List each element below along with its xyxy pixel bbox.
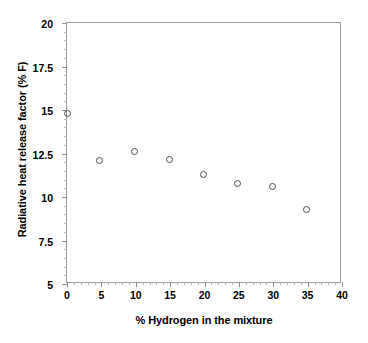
x-axis-minor-tick: [301, 282, 302, 285]
y-axis-tick-label: 7.5: [38, 236, 53, 247]
x-axis-minor-tick: [321, 282, 322, 285]
x-axis-minor-tick: [74, 282, 75, 285]
x-axis-tick-label: 0: [64, 290, 70, 301]
x-axis-minor-tick: [287, 282, 288, 285]
chart-figure: Radiative heat release factor (% F) 2017…: [0, 0, 368, 343]
y-axis-minor-tick: [64, 232, 67, 233]
y-axis-minor-tick: [64, 101, 67, 102]
x-axis-minor-tick: [260, 282, 261, 285]
x-axis-minor-tick: [191, 282, 192, 285]
data-point-marker: [303, 206, 310, 213]
y-axis-minor-tick: [64, 188, 67, 189]
plot-inner: 2017.51512.5107.550510152025303540: [67, 23, 340, 282]
y-axis-tick-label: 5: [47, 280, 53, 291]
y-axis-minor-tick: [64, 267, 67, 268]
x-axis-tick-label: 20: [199, 290, 211, 301]
x-axis-minor-tick: [280, 282, 281, 285]
x-axis-minor-tick: [115, 282, 116, 285]
x-axis-minor-tick: [328, 282, 329, 285]
data-point-marker: [166, 156, 173, 163]
x-axis-minor-tick: [177, 282, 178, 285]
data-point-marker: [131, 148, 138, 155]
x-axis-tick-label: 30: [267, 290, 279, 301]
data-point-marker: [269, 183, 276, 190]
x-axis-minor-tick: [81, 282, 82, 285]
x-axis-minor-tick: [198, 282, 199, 285]
y-axis-minor-tick: [64, 223, 67, 224]
y-axis-tick: 10: [62, 197, 67, 198]
y-axis-minor-tick: [64, 127, 67, 128]
y-axis-minor-tick: [64, 162, 67, 163]
x-axis-title: % Hydrogen in the mixture: [66, 314, 342, 326]
y-axis-minor-tick: [64, 145, 67, 146]
x-axis-minor-tick: [95, 282, 96, 285]
x-axis-tick: [342, 282, 343, 287]
y-axis-minor-tick: [64, 275, 67, 276]
x-axis-minor-tick: [143, 282, 144, 285]
y-axis-minor-tick: [64, 40, 67, 41]
x-axis-tick: [308, 282, 309, 287]
x-axis-minor-tick: [225, 282, 226, 285]
x-axis-minor-tick: [232, 282, 233, 285]
data-point-marker: [64, 110, 71, 117]
x-axis-minor-tick: [294, 282, 295, 285]
x-axis-tick: [273, 282, 274, 287]
x-axis-tick: [205, 282, 206, 287]
x-axis-minor-tick: [122, 282, 123, 285]
x-axis-tick-label: 15: [164, 290, 176, 301]
x-axis-minor-tick: [211, 282, 212, 285]
y-axis-minor-tick: [64, 49, 67, 50]
x-axis-tick: [170, 282, 171, 287]
x-axis-minor-tick: [108, 282, 109, 285]
x-axis-tick: [136, 282, 137, 287]
y-axis-minor-tick: [64, 136, 67, 137]
y-axis-minor-tick: [64, 93, 67, 94]
x-axis-tick-label: 10: [130, 290, 142, 301]
y-axis-tick: 7.5: [62, 241, 67, 242]
y-axis-minor-tick: [64, 84, 67, 85]
x-axis-tick: [101, 282, 102, 287]
y-axis-tick-label: 12.5: [33, 149, 53, 160]
y-axis-minor-tick: [64, 214, 67, 215]
x-axis-minor-tick: [156, 282, 157, 285]
x-axis-tick-label: 25: [233, 290, 245, 301]
x-axis-minor-tick: [163, 282, 164, 285]
x-axis-minor-tick: [315, 282, 316, 285]
x-axis-minor-tick: [253, 282, 254, 285]
x-axis-minor-tick: [335, 282, 336, 285]
y-axis-minor-tick: [64, 75, 67, 76]
x-axis-minor-tick: [218, 282, 219, 285]
x-axis-tick: [239, 282, 240, 287]
y-axis-minor-tick: [64, 32, 67, 33]
y-axis-tick-label: 17.5: [33, 62, 53, 73]
y-axis-minor-tick: [64, 249, 67, 250]
y-axis-minor-tick: [64, 58, 67, 59]
x-axis-minor-tick: [246, 282, 247, 285]
y-axis-tick-label: 20: [41, 19, 53, 30]
x-axis-tick-label: 35: [302, 290, 314, 301]
x-axis-minor-tick: [150, 282, 151, 285]
x-axis-minor-tick: [266, 282, 267, 285]
y-axis-tick-label: 15: [41, 106, 53, 117]
y-axis-tick: 20: [62, 23, 67, 24]
y-axis-minor-tick: [64, 206, 67, 207]
y-axis-tick: 12.5: [62, 154, 67, 155]
x-axis-minor-tick: [88, 282, 89, 285]
y-axis-minor-tick: [64, 258, 67, 259]
x-axis-tick-label: 40: [336, 290, 348, 301]
y-axis-title: Radiative heat release factor (% F): [14, 2, 30, 297]
x-axis-tick: [67, 282, 68, 287]
y-axis-minor-tick: [64, 180, 67, 181]
data-point-marker: [200, 171, 207, 178]
data-point-marker: [234, 180, 241, 187]
y-axis-tick-label: 10: [41, 193, 53, 204]
y-axis-tick: 17.5: [62, 67, 67, 68]
plot-area: 2017.51512.5107.550510152025303540: [66, 22, 341, 283]
y-axis-minor-tick: [64, 171, 67, 172]
x-axis-minor-tick: [129, 282, 130, 285]
x-axis-minor-tick: [184, 282, 185, 285]
data-point-marker: [96, 157, 103, 164]
y-axis-minor-tick: [64, 119, 67, 120]
x-axis-tick-label: 5: [98, 290, 104, 301]
